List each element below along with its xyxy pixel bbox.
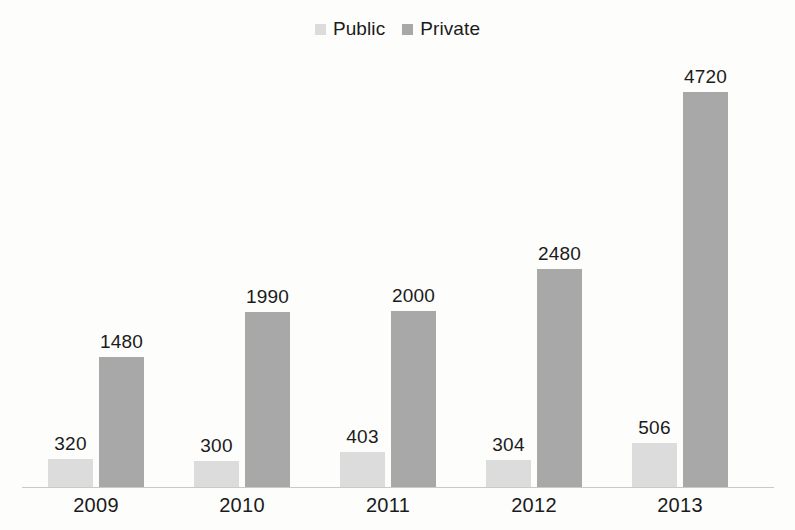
bar-value-2010-public: 300 [200, 436, 232, 455]
bar-value-2009-public: 320 [54, 434, 86, 453]
bar-wrap-2010-private[interactable]: 1990 [245, 67, 290, 487]
bar-value-2012-private: 2480 [538, 244, 581, 263]
bar-wrap-2009-public[interactable]: 320 [48, 67, 93, 487]
bar-2012-public[interactable] [486, 460, 531, 487]
bar-wrap-2012-private[interactable]: 2480 [537, 67, 582, 487]
bar-wrap-2010-public[interactable]: 300 [194, 67, 239, 487]
bar-wrap-2011-private[interactable]: 2000 [391, 67, 436, 487]
bar-wrap-2013-public[interactable]: 506 [632, 67, 677, 487]
bar-group-2011: 403 2000 [318, 67, 458, 487]
bar-value-2013-public: 506 [638, 418, 670, 437]
x-tick-label-2012: 2012 [464, 494, 604, 517]
x-axis-line [22, 487, 774, 488]
bar-2011-private[interactable] [391, 311, 436, 487]
bar-2009-private[interactable] [99, 357, 144, 487]
bar-wrap-2012-public[interactable]: 304 [486, 67, 531, 487]
bar-wrap-2011-public[interactable]: 403 [340, 67, 385, 487]
bar-wrap-2013-private[interactable]: 4720 [683, 67, 728, 487]
bar-value-2010-private: 1990 [246, 287, 289, 306]
bar-value-2009-private: 1480 [100, 332, 143, 351]
plot-area: 320 1480 2009 300 1990 2010 403 [0, 0, 795, 530]
bar-2010-public[interactable] [194, 461, 239, 487]
x-tick-label-2011: 2011 [318, 494, 458, 517]
bar-group-2009: 320 1480 [26, 67, 166, 487]
bar-value-2012-public: 304 [492, 435, 524, 454]
bar-value-2013-private: 4720 [684, 67, 727, 86]
bar-2010-private[interactable] [245, 312, 290, 487]
x-tick-label-2013: 2013 [610, 494, 750, 517]
bar-2012-private[interactable] [537, 269, 582, 487]
x-tick-label-2009: 2009 [26, 494, 166, 517]
x-tick-label-2010: 2010 [172, 494, 312, 517]
bar-wrap-2009-private[interactable]: 1480 [99, 67, 144, 487]
bar-2011-public[interactable] [340, 452, 385, 487]
bar-group-2012: 304 2480 [464, 67, 604, 487]
bar-value-2011-public: 403 [346, 427, 378, 446]
bar-chart: Public Private 320 1480 2009 300 [0, 0, 795, 530]
bar-group-2013: 506 4720 [610, 67, 750, 487]
bar-2013-public[interactable] [632, 443, 677, 488]
bar-group-2010: 300 1990 [172, 67, 312, 487]
bar-value-2011-private: 2000 [392, 286, 435, 305]
bar-2009-public[interactable] [48, 459, 93, 487]
bar-2013-private[interactable] [683, 92, 728, 487]
